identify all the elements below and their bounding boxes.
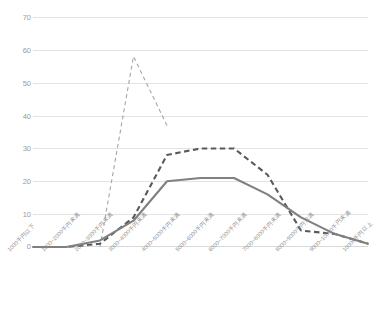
plot-area: 70 60 50 40 30 20 10 0 (33, 17, 368, 247)
y-axis-tick-20: 20 (3, 178, 31, 186)
y-axis-tick-10: 10 (3, 211, 31, 219)
y-axis-tick-30: 30 (3, 145, 31, 153)
y-axis-tick-50: 50 (3, 80, 31, 88)
chart-container: 70 60 50 40 30 20 10 0 1000千円以下1000~2000… (0, 0, 384, 311)
y-axis-tick-40: 40 (3, 113, 31, 121)
x-axis-labels: 1000千円以下1000~2000千円未満2000~3000千円未満3000~4… (33, 249, 368, 311)
series-line-2 (33, 148, 368, 247)
series-lines (33, 17, 368, 247)
y-axis-tick-70: 70 (3, 14, 31, 22)
y-axis-tick-60: 60 (3, 47, 31, 55)
